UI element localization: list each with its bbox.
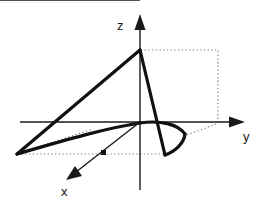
x-axis-tick-marker (101, 150, 106, 155)
figure-container: z y x (0, 0, 261, 203)
canvas-background (0, 0, 261, 203)
coordinate-diagram: z y x (0, 0, 261, 203)
x-axis-label: x (61, 184, 68, 199)
y-axis-label: y (243, 129, 250, 144)
z-axis-label: z (117, 18, 124, 33)
